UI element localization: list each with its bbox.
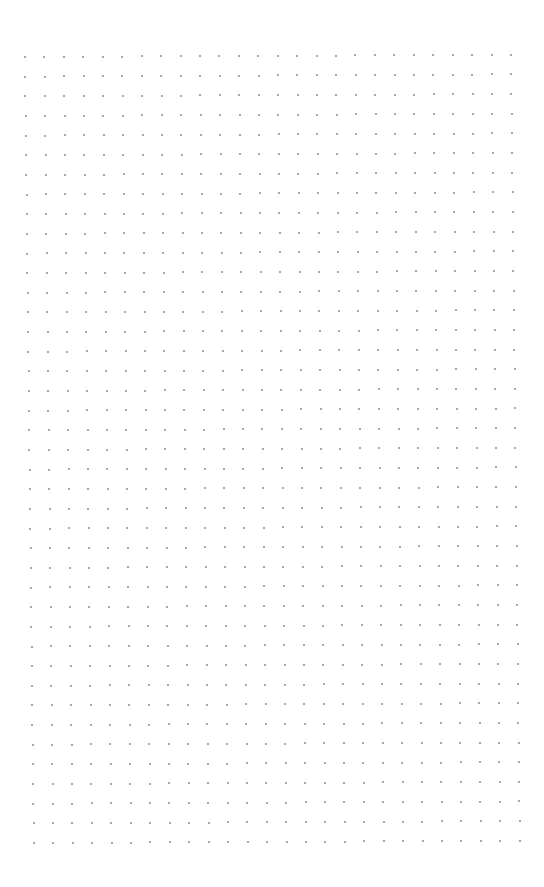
grid-dot: [48, 429, 50, 431]
grid-dot: [70, 685, 72, 687]
grid-dot: [44, 95, 46, 97]
grid-dot: [357, 310, 359, 312]
grid-dot: [438, 526, 440, 528]
grid-dot: [341, 565, 343, 567]
grid-dot: [166, 547, 168, 549]
grid-dot: [516, 584, 518, 586]
grid-dot: [343, 782, 345, 784]
grid-dot: [162, 213, 164, 215]
grid-dot: [324, 801, 326, 803]
grid-dot: [164, 409, 166, 411]
grid-dot: [184, 448, 186, 450]
grid-dot: [220, 193, 222, 195]
grid-dot: [106, 409, 108, 411]
grid-dot: [166, 586, 168, 588]
grid-dot: [89, 685, 91, 687]
grid-dot: [219, 114, 221, 116]
grid-dot: [246, 762, 248, 764]
grid-dot: [206, 704, 208, 706]
grid-dot: [476, 486, 478, 488]
grid-dot: [418, 526, 420, 528]
grid-dot: [376, 212, 378, 214]
grid-dot: [127, 566, 129, 568]
grid-dot: [184, 429, 186, 431]
grid-dot: [28, 449, 30, 451]
grid-dot: [127, 586, 129, 588]
grid-dot: [64, 134, 66, 136]
grid-dot: [421, 762, 423, 764]
grid-dot: [454, 270, 456, 272]
grid-dot: [362, 723, 364, 725]
grid-dot: [477, 545, 479, 547]
grid-dot: [27, 351, 29, 353]
grid-dot: [164, 370, 166, 372]
grid-dot: [142, 173, 144, 175]
grid-dot: [457, 565, 459, 567]
grid-dot: [284, 664, 286, 666]
grid-dot: [357, 271, 359, 273]
grid-dot: [476, 467, 478, 469]
grid-dot: [337, 271, 339, 273]
grid-dot: [203, 389, 205, 391]
grid-dot: [187, 723, 189, 725]
grid-dot: [437, 447, 439, 449]
grid-dot: [339, 389, 341, 391]
grid-dot: [65, 213, 67, 215]
grid-dot: [383, 840, 385, 842]
grid-dot: [258, 153, 260, 155]
grid-dot: [380, 565, 382, 567]
grid-dot: [339, 428, 341, 430]
grid-dot: [240, 232, 242, 234]
grid-dot: [397, 388, 399, 390]
grid-dot: [460, 781, 462, 783]
grid-dot: [109, 665, 111, 667]
grid-dot: [48, 469, 50, 471]
grid-dot: [208, 841, 210, 843]
grid-dot: [477, 565, 479, 567]
grid-dot: [316, 114, 318, 116]
grid-dot: [161, 114, 163, 116]
grid-dot: [89, 665, 91, 667]
grid-dot: [126, 488, 128, 490]
grid-dot: [241, 310, 243, 312]
grid-dot: [127, 547, 129, 549]
grid-dot: [316, 94, 318, 96]
grid-dot: [124, 291, 126, 293]
grid-dot: [261, 369, 263, 371]
grid-dot: [225, 684, 227, 686]
grid-dot: [86, 409, 88, 411]
grid-dot: [285, 782, 287, 784]
grid-dot: [47, 331, 49, 333]
grid-dot: [440, 722, 442, 724]
grid-dot: [321, 546, 323, 548]
grid-dot: [418, 487, 420, 489]
grid-dot: [84, 193, 86, 195]
grid-dot: [414, 172, 416, 174]
grid-dot: [69, 567, 71, 569]
grid-dot: [420, 683, 422, 685]
grid-dot: [317, 212, 319, 214]
grid-dot: [418, 506, 420, 508]
grid-dot: [437, 506, 439, 508]
grid-dot: [47, 370, 49, 372]
grid-dot: [277, 55, 279, 57]
grid-dot: [281, 448, 283, 450]
grid-dot: [220, 153, 222, 155]
grid-dot: [149, 802, 151, 804]
grid-dot: [516, 604, 518, 606]
grid-dot: [381, 722, 383, 724]
grid-dot: [223, 428, 225, 430]
grid-dot: [108, 586, 110, 588]
grid-dot: [167, 684, 169, 686]
grid-dot: [495, 427, 497, 429]
grid-dot: [380, 605, 382, 607]
grid-dot: [394, 133, 396, 135]
grid-dot: [227, 821, 229, 823]
grid-dot: [319, 369, 321, 371]
grid-dot: [24, 95, 26, 97]
grid-dot: [201, 271, 203, 273]
grid-dot: [202, 350, 204, 352]
grid-dot: [400, 604, 402, 606]
grid-dot: [421, 781, 423, 783]
grid-dot: [341, 585, 343, 587]
